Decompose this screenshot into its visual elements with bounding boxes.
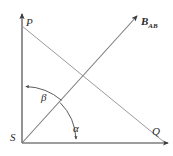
- p-axis-label: P: [26, 17, 33, 28]
- q-axis-label: Q: [152, 126, 160, 137]
- vector-b-ab-label: BAB: [141, 16, 158, 30]
- angle-beta-label: β: [41, 92, 46, 103]
- angle-alpha-label: α: [73, 123, 79, 134]
- origin-label: S: [10, 132, 16, 143]
- vector-subscript-label: AB: [148, 22, 157, 30]
- descending-line: [22, 26, 164, 142]
- vector-b-ab-line: [22, 16, 137, 143]
- vector-diagram: P S Q BAB α β: [0, 0, 173, 156]
